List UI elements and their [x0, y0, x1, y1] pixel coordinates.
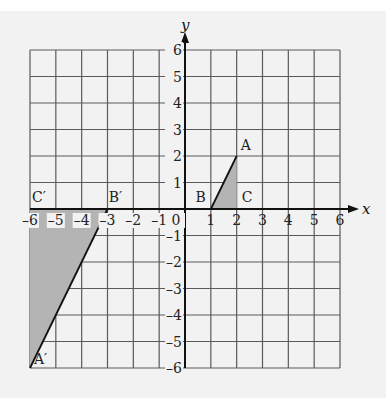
x-tick-label: 1 — [206, 212, 215, 228]
x-tick-label: –4 — [74, 212, 90, 228]
y-tick-label: 3 — [173, 122, 182, 138]
x-tick-label: –5 — [48, 212, 64, 228]
y-tick-label: –4 — [166, 307, 182, 323]
y-tick-label: –2 — [166, 254, 182, 270]
y-tick-label: –6 — [166, 360, 182, 376]
vertex-label: C′ — [32, 189, 46, 205]
x-tick-label: –3 — [100, 212, 116, 228]
x-tick-label: 2 — [232, 212, 241, 228]
x-tick-label: –6 — [22, 212, 38, 228]
vertex-label: C — [242, 189, 253, 205]
x-tick-label: 0 — [172, 212, 181, 228]
vertex-label: A — [240, 137, 252, 153]
x-axis-label: x — [362, 200, 371, 218]
x-tick-label: 5 — [310, 212, 319, 228]
x-tick-label: 4 — [284, 212, 293, 228]
y-axis-label: y — [180, 16, 190, 34]
y-tick-label: –3 — [166, 281, 182, 297]
y-tick-label: 4 — [173, 95, 182, 111]
y-tick-label: 2 — [173, 148, 182, 164]
y-tick-label: –1 — [166, 228, 182, 244]
x-tick-label: –1 — [151, 212, 167, 228]
y-tick-label: 6 — [173, 42, 182, 58]
x-tick-label: 3 — [258, 212, 267, 228]
coordinate-plane: x y –6–5–4–3–2–10123456654321–1–2–3–4–5–… — [0, 0, 390, 398]
vertex-label: A′ — [33, 351, 47, 367]
vertex-label: B — [196, 189, 206, 205]
x-tick-label: –2 — [125, 212, 141, 228]
y-tick-label: 5 — [173, 69, 182, 85]
vertex-label: B′ — [109, 189, 122, 205]
x-axis-arrow-icon — [348, 205, 359, 213]
y-tick-label: –5 — [166, 334, 182, 350]
x-tick-label: 6 — [336, 212, 345, 228]
y-tick-label: 1 — [173, 175, 182, 191]
